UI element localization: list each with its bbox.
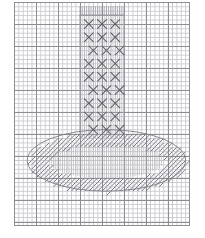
hull-half-stitch [50,170,53,173]
hull-half-stitch [63,143,66,146]
hull-half-stitch [164,148,167,151]
hull-half-stitch [85,183,88,186]
hull-half-stitch [160,179,163,182]
hull-half-stitch [177,174,180,177]
hull-half-stitch [89,139,92,142]
hull-half-stitch [54,143,57,146]
hull-half-stitch [151,174,154,177]
cross-stitch-chart [0,0,205,238]
hull-half-stitch [147,187,150,190]
hull-half-stitch [129,179,132,182]
hull-half-stitch [76,179,79,182]
hull-half-stitch [138,135,141,138]
hull-half-stitch [169,148,172,151]
hull-half-stitch [54,179,57,182]
hull-half-stitch [177,152,180,155]
hull-half-stitch [103,187,106,190]
hull-half-stitch [41,161,44,164]
hull-half-stitch [173,170,176,173]
hull-half-stitch [94,187,97,190]
hull-half-stitch [111,179,114,182]
hull-half-stitch [45,174,48,177]
hull-half-stitch [59,174,62,177]
hull-half-stitch [133,135,136,138]
hull-half-stitch [63,139,66,142]
hull-half-stitch [59,143,62,146]
hull-half-stitch [41,152,44,155]
hull-half-stitch [169,165,172,168]
hull-half-stitch [133,179,136,182]
hull-half-stitch [107,192,110,195]
hull-half-stitch [169,143,172,146]
hull-half-stitch [54,170,57,173]
hull-half-stitch [147,139,150,142]
hull-half-stitch [54,139,57,142]
hull-half-stitch [103,183,106,186]
hull-half-stitch [155,148,158,151]
hull-half-stitch [50,179,53,182]
hull-half-stitch [67,179,70,182]
hull-half-stitch [120,179,123,182]
hull-half-stitch [50,143,53,146]
hull-half-stitch [173,148,176,151]
hull-half-stitch [177,165,180,168]
hull-half-stitch [164,143,167,146]
hull-half-stitch [45,161,48,164]
hull-half-stitch [67,139,70,142]
hull-half-stitch [45,148,48,151]
hull-half-stitch [98,179,101,182]
hull-half-stitch [169,174,172,177]
hull-half-stitch [72,183,75,186]
hull-half-stitch [111,139,114,142]
hull-half-stitch [89,183,92,186]
hull-half-stitch [173,152,176,155]
hull-half-stitch [160,174,163,177]
hull-half-stitch [129,183,132,186]
hull-half-stitch [120,183,123,186]
hull-half-stitch [45,157,48,160]
mast-cap-hatching-group [80,6,124,15]
hull-half-stitch [173,157,176,160]
hull-half-stitch [54,148,57,151]
hull-half-stitch [186,161,189,164]
hull-half-stitch [107,187,110,190]
hull-half-stitch [177,161,180,164]
hull-half-stitch [129,139,132,142]
hull-half-stitch [151,143,154,146]
hull-half-stitch [155,139,158,142]
hull-half-stitch [107,139,110,142]
hull-half-stitch [37,161,40,164]
hull-half-stitch [76,135,79,138]
hull-half-stitch [160,143,163,146]
hull-half-stitch [81,183,84,186]
hull-half-stitch [133,139,136,142]
hull-half-stitch [133,183,136,186]
hull-half-stitch [111,183,114,186]
hull-half-stitch [81,179,84,182]
hull-half-stitch [138,139,141,142]
hull-half-stitch [116,187,119,190]
hull-half-stitch [160,152,163,155]
hull-half-stitch [32,161,35,164]
hull-half-stitch [155,179,158,182]
hull-half-stitch [155,143,158,146]
hull-half-stitch [45,165,48,168]
hull-half-stitch [63,174,66,177]
hull-half-stitch [107,179,110,182]
hull-half-stitch [125,139,128,142]
hull-half-stitch [98,139,101,142]
hull-half-stitch [41,157,44,160]
hull-half-stitch [120,139,123,142]
hull-half-stitch [37,148,40,151]
hull-half-stitch [28,161,31,164]
hull-half-stitch [37,165,40,168]
hull-half-stitch [103,179,106,182]
hull-half-stitch [125,135,128,138]
hull-half-stitch [142,179,145,182]
hull-half-stitch [37,152,40,155]
hull-half-stitch [147,174,150,177]
hull-half-stitch [147,179,150,182]
hull-half-stitch [72,139,75,142]
hull-half-stitch [155,174,158,177]
hull-half-stitch [138,183,141,186]
